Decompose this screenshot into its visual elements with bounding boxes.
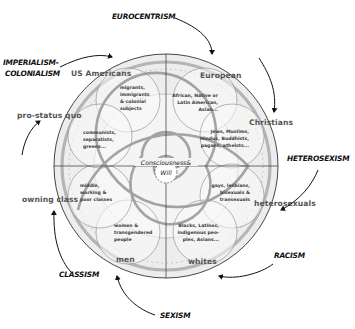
arrow-imperialism-icon bbox=[60, 55, 112, 67]
svg-text:greens...: greens... bbox=[83, 144, 106, 149]
arrow-racism-icon bbox=[219, 264, 273, 277]
svg-text:working &: working & bbox=[80, 190, 106, 195]
group-christians: Christians bbox=[249, 118, 294, 127]
svg-text:transexuals: transexuals bbox=[220, 197, 251, 202]
svg-text:ples, Asians...: ples, Asians... bbox=[183, 237, 220, 242]
svg-text:Blacks, Latinos,: Blacks, Latinos, bbox=[178, 223, 219, 228]
label-classism: CLASSISM bbox=[59, 270, 100, 279]
svg-text:separatists,: separatists, bbox=[83, 137, 114, 142]
svg-text:migrants,: migrants, bbox=[120, 85, 145, 90]
svg-text:communists,: communists, bbox=[83, 130, 116, 135]
svg-text:poor classes: poor classes bbox=[80, 197, 112, 202]
svg-text:Latin American,: Latin American, bbox=[177, 100, 218, 105]
svg-text:bisexuals &: bisexuals & bbox=[220, 190, 250, 195]
group-us-americans: US Americans bbox=[71, 69, 132, 78]
group-pro-status-quo: pro-status quo bbox=[17, 111, 81, 120]
group-heterosexuals: heterosexuals bbox=[254, 199, 316, 208]
label-imperialism: IMPERIALISM- bbox=[3, 58, 59, 67]
svg-text:Hindus, Buddhists,: Hindus, Buddhists, bbox=[200, 136, 249, 141]
label-colonialism: COLONIALISM bbox=[5, 69, 61, 78]
svg-text:& colonial: & colonial bbox=[120, 99, 146, 104]
svg-text:subjects: subjects bbox=[120, 106, 142, 111]
svg-text:people: people bbox=[114, 237, 132, 242]
label-eurocentrism: EUROCENTRISM bbox=[112, 12, 176, 21]
svg-text:Jews, Muslims,: Jews, Muslims, bbox=[210, 129, 249, 134]
svg-text:pagans, atheists...: pagans, atheists... bbox=[201, 143, 250, 148]
arrow-sexism-icon bbox=[117, 276, 155, 315]
center-label-will: Will bbox=[160, 169, 172, 176]
svg-text:transgendered: transgendered bbox=[114, 230, 152, 235]
group-european: European bbox=[200, 71, 241, 80]
oppression-wheel-diagram: Consciousness& Will US Americans Europea… bbox=[0, 0, 355, 329]
wheel bbox=[54, 54, 278, 278]
svg-text:women &: women & bbox=[114, 223, 138, 228]
svg-text:gays, lesbians,: gays, lesbians, bbox=[212, 183, 251, 188]
label-racism: RACISM bbox=[274, 251, 306, 260]
label-heterosexism: HETEROSEXISM bbox=[287, 154, 350, 163]
label-sexism: SEXISM bbox=[160, 311, 191, 320]
group-owning-class: owning class bbox=[22, 195, 79, 204]
group-men: men bbox=[116, 255, 135, 264]
targeted-blacks: Blacks, Latinos, indigenous peo- ples, A… bbox=[177, 223, 219, 242]
center-label-consciousness: Consciousness& bbox=[141, 159, 191, 166]
svg-text:middle,: middle, bbox=[80, 183, 100, 188]
group-whites: whites bbox=[188, 257, 217, 266]
arrow-pro-status-quo-icon bbox=[22, 121, 40, 155]
arrow-christians-icon bbox=[259, 58, 275, 112]
svg-text:African, Native or: African, Native or bbox=[172, 93, 218, 98]
svg-text:immigrants: immigrants bbox=[120, 92, 150, 97]
svg-text:Asian...: Asian... bbox=[199, 107, 219, 112]
svg-text:indigenous peo-: indigenous peo- bbox=[177, 230, 219, 235]
arrow-eurocentrism-icon bbox=[175, 18, 212, 54]
